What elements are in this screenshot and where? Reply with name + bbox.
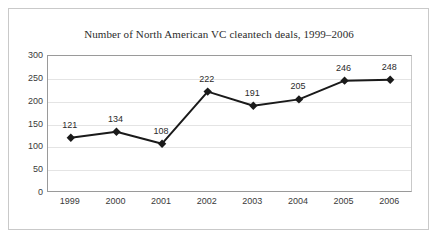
y-axis-tick-label: 50 [33,164,43,174]
plot-area [47,55,412,192]
x-axis-tick-label: 2005 [334,196,354,206]
data-value-label: 205 [290,81,305,91]
x-axis-tick-label: 2000 [105,196,125,206]
x-axis-tick-label: 2003 [242,196,262,206]
data-point-marker [386,76,394,84]
data-value-label: 134 [108,114,123,124]
data-value-label: 246 [336,63,351,73]
data-point-marker [295,95,303,103]
x-axis-tick-labels: 19992000200120022003200420052006 [47,196,412,210]
data-value-label: 191 [245,88,260,98]
x-axis-tick-label: 2006 [379,196,399,206]
y-axis-tick-label: 250 [28,73,43,83]
data-value-label: 108 [154,126,169,136]
data-point-marker [112,128,120,136]
y-axis-tick-label: 150 [28,119,43,129]
data-point-marker [340,76,348,84]
data-value-label: 121 [62,120,77,130]
y-axis-tick-labels: 050100150200250300 [8,55,43,192]
data-point-marker [249,102,257,110]
series-line [71,80,390,144]
data-point-marker [67,134,75,142]
data-value-label: 248 [382,62,397,72]
y-axis-tick-label: 200 [28,96,43,106]
data-value-label: 222 [199,74,214,84]
chart-screenshot: Number of North American VC cleantech de… [0,0,438,239]
x-axis-tick-label: 2004 [288,196,308,206]
x-axis-tick-label: 2001 [151,196,171,206]
x-axis-tick-label: 1999 [60,196,80,206]
y-axis-tick-label: 100 [28,141,43,151]
chart-title: Number of North American VC cleantech de… [0,28,438,40]
line-series [48,56,413,193]
y-axis-tick-label: 0 [38,187,43,197]
y-axis-tick-label: 300 [28,50,43,60]
x-axis-tick-label: 2002 [197,196,217,206]
